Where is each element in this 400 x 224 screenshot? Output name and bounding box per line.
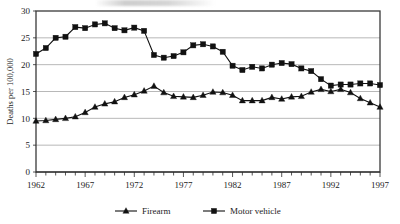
y-tick-label-25: 25 bbox=[21, 33, 31, 43]
data-series-group bbox=[33, 21, 383, 124]
data-point-1975 bbox=[161, 55, 166, 60]
y-tick-label-10: 10 bbox=[21, 114, 31, 124]
data-point-1989 bbox=[299, 66, 304, 71]
data-point-1967 bbox=[83, 26, 88, 31]
chart-legend: FirearmMotor vehicle bbox=[115, 206, 281, 216]
data-point-1991 bbox=[318, 77, 323, 82]
data-point-1985 bbox=[259, 66, 264, 71]
data-point-1969 bbox=[102, 21, 107, 26]
data-point-1986 bbox=[269, 94, 275, 100]
x-tick-label-1992: 1992 bbox=[322, 180, 340, 190]
y-tick-label-0: 0 bbox=[26, 167, 31, 177]
data-point-1994 bbox=[348, 82, 353, 87]
y-tick-label-20: 20 bbox=[21, 60, 31, 70]
data-point-1995 bbox=[358, 81, 363, 86]
series-motor-vehicle bbox=[33, 21, 382, 88]
data-point-1974 bbox=[151, 52, 156, 57]
y-axis-title-text: Deaths per 100,000 bbox=[5, 58, 15, 124]
chart-container: 051015202530 196219671972197719821987199… bbox=[0, 0, 400, 224]
series-line bbox=[36, 23, 380, 85]
data-point-1984 bbox=[250, 64, 255, 69]
y-axis-ticks-group: 051015202530 bbox=[21, 6, 36, 177]
data-point-1977 bbox=[181, 50, 186, 55]
data-point-1979 bbox=[200, 42, 205, 47]
data-point-1974 bbox=[151, 83, 157, 89]
data-point-1962 bbox=[33, 51, 38, 56]
data-point-1971 bbox=[122, 28, 127, 33]
data-point-1986 bbox=[269, 62, 274, 67]
line-chart: 051015202530 196219671972197719821987199… bbox=[0, 0, 400, 224]
data-point-1988 bbox=[289, 62, 294, 67]
data-point-1970 bbox=[112, 26, 117, 31]
data-point-1981 bbox=[220, 49, 225, 54]
x-tick-label-1972: 1972 bbox=[125, 180, 143, 190]
data-point-1992 bbox=[328, 83, 333, 88]
x-tick-label-1977: 1977 bbox=[174, 180, 193, 190]
data-point-1997 bbox=[377, 82, 382, 87]
series-firearm bbox=[33, 83, 383, 123]
data-point-1978 bbox=[191, 43, 196, 48]
data-point-1983 bbox=[240, 67, 245, 72]
data-point-1976 bbox=[171, 53, 176, 58]
data-point-1993 bbox=[338, 82, 343, 87]
data-point-1996 bbox=[368, 81, 373, 86]
data-point-1972 bbox=[132, 25, 137, 30]
data-point-1995 bbox=[357, 95, 363, 101]
x-tick-label-1997: 1997 bbox=[371, 180, 390, 190]
legend-marker-square bbox=[211, 208, 216, 213]
data-point-1968 bbox=[92, 22, 97, 27]
y-tick-label-5: 5 bbox=[26, 140, 31, 150]
data-point-1967 bbox=[82, 109, 88, 115]
y-tick-label-15: 15 bbox=[21, 87, 31, 97]
scan-artifact-smudge bbox=[95, 0, 215, 6]
data-point-1982 bbox=[230, 63, 235, 68]
x-axis-ticks-group: 19621967197219771982198719921997 bbox=[27, 172, 390, 190]
data-point-1980 bbox=[210, 44, 215, 49]
data-point-1963 bbox=[43, 45, 48, 50]
data-point-1987 bbox=[279, 60, 284, 65]
legend-item-motor-vehicle[interactable]: Motor vehicle bbox=[203, 206, 281, 216]
data-point-1975 bbox=[161, 89, 167, 95]
data-point-1973 bbox=[142, 28, 147, 33]
x-tick-label-1982: 1982 bbox=[224, 180, 242, 190]
data-point-1964 bbox=[53, 35, 58, 40]
legend-item-firearm[interactable]: Firearm bbox=[115, 206, 171, 216]
x-tick-label-1987: 1987 bbox=[273, 180, 292, 190]
y-axis-title: Deaths per 100,000 bbox=[5, 58, 15, 124]
legend-label: Firearm bbox=[142, 206, 171, 216]
x-tick-label-1967: 1967 bbox=[76, 180, 95, 190]
data-point-1965 bbox=[63, 34, 68, 39]
data-point-1991 bbox=[318, 86, 324, 92]
x-tick-label-1962: 1962 bbox=[27, 180, 45, 190]
data-point-1966 bbox=[73, 25, 78, 30]
legend-label: Motor vehicle bbox=[230, 206, 281, 216]
y-tick-label-30: 30 bbox=[21, 6, 31, 16]
data-point-1990 bbox=[309, 69, 314, 74]
